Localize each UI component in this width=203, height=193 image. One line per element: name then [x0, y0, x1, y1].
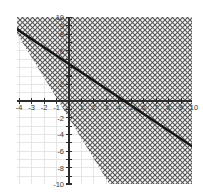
x-tick-label: -4	[16, 103, 23, 112]
x-tick-label: 9	[179, 103, 183, 112]
x-tick-label: 7	[154, 103, 158, 112]
x-tick-label: 5	[129, 103, 133, 112]
x-tick-label: 8	[167, 103, 171, 112]
x-tick-label: -3	[28, 103, 35, 112]
y-tick-label: -10	[53, 180, 64, 189]
x-tick-label: 1	[79, 103, 83, 112]
x-tick-label: 2	[92, 103, 96, 112]
x-tick-label: 10	[190, 103, 198, 112]
y-tick-label: 2	[60, 80, 64, 89]
x-tick-label: -1	[53, 103, 60, 112]
y-tick-label: 8	[60, 30, 64, 39]
y-tick-label: -8	[57, 164, 64, 173]
y-tick-label: -2	[57, 114, 64, 123]
y-tick-label: 6	[60, 47, 64, 56]
x-tick-label: 6	[142, 103, 146, 112]
coordinate-graph-figure: -4 -3 -2 -1 1 2 3 4 5 6 7 8 9 10 10 9 8 …	[0, 0, 203, 193]
x-tick-label: 4	[117, 103, 121, 112]
x-tick-label: -2	[41, 103, 48, 112]
x-tick-label: 3	[104, 103, 108, 112]
coordinate-plane-chart: -4 -3 -2 -1 1 2 3 4 5 6 7 8 9 10 10 9 8 …	[0, 0, 203, 193]
y-tick-label: -6	[57, 147, 64, 156]
y-tick-label: -4	[57, 130, 64, 139]
